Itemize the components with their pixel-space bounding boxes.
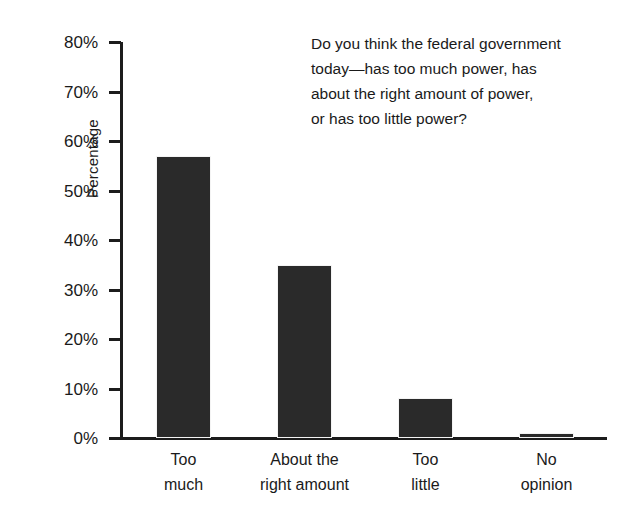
x-axis-tick-label-line: opinion (486, 472, 607, 497)
y-axis-tick-label: 80% (36, 34, 98, 51)
x-axis-tick-label-line: right amount (244, 472, 365, 497)
bar-chart-figure: Percentage 0%10%20%30%40%50%60%70%80% To… (0, 0, 631, 515)
x-axis-tick-label-line: No (486, 447, 607, 472)
y-axis-tick-mark (109, 140, 121, 143)
y-axis-tick-mark (109, 41, 121, 44)
survey-question-line: today—has too much power, has (311, 56, 621, 81)
bar[interactable] (519, 433, 575, 438)
y-axis-tick-mark (109, 190, 121, 193)
y-axis-tick-label: 40% (36, 232, 98, 249)
y-axis-tick-label: 50% (36, 182, 98, 199)
survey-question-annotation: Do you think the federal governmenttoday… (311, 31, 621, 131)
bar[interactable] (156, 156, 212, 438)
y-axis-tick-mark (109, 338, 121, 341)
x-axis-tick-label: Noopinion (486, 447, 607, 497)
y-axis-tick-labels: 0%10%20%30%40%50%60%70%80% (36, 0, 98, 515)
x-axis-tick-label: Toolittle (365, 447, 486, 497)
y-axis-tick-label: 70% (36, 83, 98, 100)
bar[interactable] (277, 265, 333, 438)
y-axis-tick-mark (109, 388, 121, 391)
x-axis-tick-label-line: Too (365, 447, 486, 472)
bar[interactable] (398, 398, 454, 438)
bar-group (156, 42, 212, 438)
y-axis-tick-mark (109, 239, 121, 242)
x-axis-tick-label-line: Too (123, 447, 244, 472)
y-axis-tick-label: 0% (36, 430, 98, 447)
y-axis-tick-label: 30% (36, 281, 98, 298)
y-axis-tick-mark (109, 289, 121, 292)
survey-question-line: or has too little power? (311, 106, 621, 131)
x-axis-tick-label: Toomuch (123, 447, 244, 497)
y-axis-tick-label: 10% (36, 380, 98, 397)
x-axis-tick-label-line: About the (244, 447, 365, 472)
survey-question-line: Do you think the federal government (311, 31, 621, 56)
survey-question-line: about the right amount of power, (311, 81, 621, 106)
y-axis-tick-mark (109, 437, 121, 440)
y-axis-tick-label: 20% (36, 331, 98, 348)
x-axis-tick-labels: ToomuchAbout theright amountToolittleNoo… (123, 447, 607, 511)
y-axis-tick-label: 60% (36, 133, 98, 150)
x-axis-tick-label-line: much (123, 472, 244, 497)
x-axis-tick-label-line: little (365, 472, 486, 497)
y-axis-tick-mark (109, 91, 121, 94)
x-axis-tick-label: About theright amount (244, 447, 365, 497)
